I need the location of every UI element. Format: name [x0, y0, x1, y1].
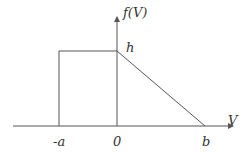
linear-decreasing-segment — [117, 51, 205, 126]
peak-label: h — [126, 40, 134, 55]
pdf-diagram: f(V) V h -a 0 b — [0, 0, 248, 152]
rectangular-segment — [59, 51, 117, 126]
x-axis-label: V — [228, 113, 239, 128]
tick-label-neg-a: -a — [53, 134, 65, 149]
y-axis-label: f(V) — [122, 5, 147, 20]
tick-label-zero: 0 — [113, 134, 121, 149]
tick-label-b: b — [202, 134, 210, 149]
